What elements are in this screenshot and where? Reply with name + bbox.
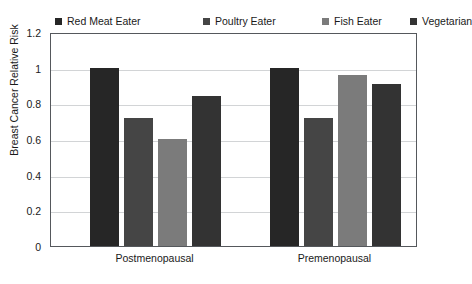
y-axis-tick-label: 1 xyxy=(35,63,41,75)
y-axis-tick-label: 0 xyxy=(35,241,41,253)
plot-area xyxy=(50,33,417,247)
legend-item[interactable]: Poultry Eater xyxy=(203,16,276,27)
y-axis-tick-label: 0.6 xyxy=(26,134,41,146)
bar xyxy=(270,68,299,246)
legend-item[interactable]: Vegetarian xyxy=(410,16,472,27)
legend-swatch-icon xyxy=(55,18,62,25)
chart-legend: Red Meat EaterPoultry EaterFish EaterVeg… xyxy=(55,13,431,29)
bar xyxy=(192,96,221,246)
y-axis-ticks: 00.20.40.60.811.2 xyxy=(0,33,46,247)
y-axis-tick-label: 0.8 xyxy=(26,98,41,110)
x-axis-category-label: Postmenopausal xyxy=(115,252,193,264)
y-axis-tick-label: 0.2 xyxy=(26,205,41,217)
bar xyxy=(124,118,153,246)
legend-item-label: Vegetarian xyxy=(422,16,472,27)
bar xyxy=(372,84,401,246)
bar xyxy=(158,139,187,246)
legend-item-label: Red Meat Eater xyxy=(67,16,141,27)
legend-swatch-icon xyxy=(203,18,210,25)
bar xyxy=(304,118,333,246)
x-axis-labels: PostmenopausalPremenopausal xyxy=(50,252,417,270)
x-axis-category-label: Premenopausal xyxy=(298,252,372,264)
legend-swatch-icon xyxy=(322,18,329,25)
legend-item[interactable]: Red Meat Eater xyxy=(55,16,141,27)
bar xyxy=(90,68,119,246)
legend-swatch-icon xyxy=(410,18,417,25)
legend-item-label: Poultry Eater xyxy=(215,16,276,27)
bars-layer xyxy=(51,34,416,246)
y-axis-tick-label: 1.2 xyxy=(26,27,41,39)
legend-item[interactable]: Fish Eater xyxy=(322,16,382,27)
bar xyxy=(338,75,367,246)
y-axis-tick-label: 0.4 xyxy=(26,170,41,182)
legend-item-label: Fish Eater xyxy=(334,16,382,27)
